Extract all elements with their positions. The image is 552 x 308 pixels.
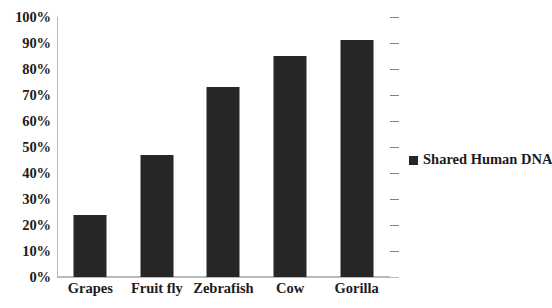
y-axis-tick-label: 80%	[0, 62, 51, 77]
bar-slot	[124, 17, 191, 277]
bar-cow[interactable]	[274, 56, 307, 277]
y-axis-tick-label: 40%	[0, 166, 51, 181]
y-axis-tick-label: 70%	[0, 88, 51, 103]
y-axis-tick-label: 0%	[0, 270, 51, 285]
y-axis-tick-label: 60%	[0, 114, 51, 129]
bar-slot	[57, 17, 124, 277]
legend-square-marker-icon	[409, 156, 418, 165]
y-axis-tick-label: 30%	[0, 192, 51, 207]
bar-slot	[190, 17, 257, 277]
y-axis-tick-label: 90%	[0, 36, 51, 51]
y-axis: 0%10%20%30%40%50%60%70%80%90%100%	[0, 17, 51, 277]
bar-gorilla[interactable]	[340, 40, 373, 277]
legend-entry-label: Shared Human DNA	[423, 152, 552, 167]
bars-layer	[57, 17, 390, 277]
y-axis-tick-label: 50%	[0, 140, 51, 155]
x-axis: GrapesFruit flyZebrafishCowGorilla	[57, 281, 390, 305]
x-axis-category-label: Cow	[257, 281, 324, 297]
x-axis-category-label: Grapes	[57, 281, 124, 297]
bar-slot	[323, 17, 390, 277]
chart-legend: Shared Human DNA	[409, 152, 552, 167]
y-axis-tick-label: 100%	[0, 10, 51, 25]
bar-grapes[interactable]	[74, 215, 107, 277]
gridline	[57, 277, 399, 278]
x-axis-category-label: Zebrafish	[190, 281, 257, 297]
bar-zebrafish[interactable]	[207, 87, 240, 277]
x-axis-category-label: Gorilla	[323, 281, 390, 297]
bar-slot	[257, 17, 324, 277]
y-axis-tick-label: 20%	[0, 218, 51, 233]
bar-fruit-fly[interactable]	[140, 155, 173, 277]
y-axis-tick-label: 10%	[0, 244, 51, 259]
x-axis-category-label: Fruit fly	[124, 281, 191, 297]
